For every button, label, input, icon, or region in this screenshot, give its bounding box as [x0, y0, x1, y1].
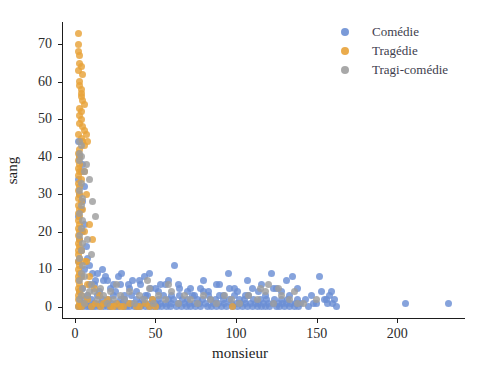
scatter-point: [228, 296, 235, 303]
scatter-point: [175, 300, 182, 307]
legend-marker-icon: [341, 28, 349, 36]
scatter-point: [88, 251, 95, 258]
scatter-point: [83, 161, 90, 168]
legend-label: Comédie: [372, 22, 419, 41]
legend-marker-icon: [341, 47, 349, 55]
legend-item[interactable]: Tragi-comédie: [341, 60, 473, 79]
x-tick-mark: [397, 319, 398, 323]
y-tick-label: 60: [12, 75, 52, 89]
scatter-point: [265, 281, 272, 288]
scatter-point: [402, 300, 409, 307]
scatter-point: [97, 285, 104, 292]
scatter-point: [75, 41, 82, 48]
scatter-point: [278, 292, 285, 299]
scatter-point: [86, 176, 93, 183]
x-tick-mark: [317, 319, 318, 323]
scatter-point: [78, 247, 85, 254]
scatter-point: [313, 296, 320, 303]
scatter-point: [78, 142, 85, 149]
scatter-point: [81, 101, 88, 108]
y-tick-label: 50: [12, 112, 52, 126]
x-tick-mark: [155, 319, 156, 323]
scatter-point: [117, 303, 124, 310]
scatter-point: [225, 270, 232, 277]
scatter-point: [131, 300, 138, 307]
scatter-point: [99, 266, 106, 273]
x-tick-label: 200: [367, 325, 427, 343]
scatter-point: [76, 60, 83, 67]
scatter-point: [194, 300, 201, 307]
scatter-point: [144, 277, 151, 284]
scatter-point: [236, 300, 243, 307]
scatter-point: [213, 300, 220, 307]
scatter-point: [88, 281, 95, 288]
scatter-point: [165, 281, 172, 288]
scatter-point: [162, 296, 169, 303]
scatter-point: [78, 180, 85, 187]
scatter-point: [300, 300, 307, 307]
scatter-point: [146, 285, 153, 292]
x-tick-label: 50: [125, 325, 185, 343]
scatter-point: [244, 277, 251, 284]
legend-item[interactable]: Comédie: [341, 22, 473, 41]
y-axis-label: sang: [4, 136, 21, 206]
scatter-point: [152, 285, 159, 292]
scatter-point: [110, 296, 117, 303]
scatter-point: [78, 225, 85, 232]
scatter-point: [331, 296, 338, 303]
y-tick-label: 10: [12, 262, 52, 276]
legend-label: Tragi-comédie: [372, 60, 448, 79]
scatter-point: [286, 296, 293, 303]
scatter-point: [83, 131, 90, 138]
scatter-point: [197, 285, 204, 292]
scatter-point: [75, 30, 82, 37]
scatter-point: [86, 221, 93, 228]
scatter-point: [333, 303, 340, 310]
legend-label: Tragédie: [372, 41, 418, 60]
scatter-point: [328, 288, 335, 295]
scatter-point: [187, 285, 194, 292]
x-tick-label: 150: [287, 325, 347, 343]
y-tick-label: 0: [12, 300, 52, 314]
scatter-point: [76, 255, 83, 262]
scatter-point: [257, 285, 264, 292]
x-tick-mark: [236, 319, 237, 323]
scatter-point: [118, 270, 125, 277]
scatter-point: [150, 300, 157, 307]
x-tick-label: 100: [206, 325, 266, 343]
y-tick-label: 70: [12, 37, 52, 51]
scatter-point: [275, 285, 282, 292]
x-tick-label: 0: [45, 325, 105, 343]
legend-item[interactable]: Tragédie: [341, 41, 473, 60]
scatter-point: [445, 300, 452, 307]
scatter-point: [270, 300, 277, 307]
scatter-point: [141, 296, 148, 303]
legend: ComédieTragédieTragi-comédie: [341, 22, 473, 79]
y-tick-label: 20: [12, 225, 52, 239]
legend-marker-icon: [341, 66, 349, 74]
x-axis-spine: [62, 318, 465, 319]
x-tick-mark: [75, 319, 76, 323]
scatter-point: [78, 202, 85, 209]
scatter-point: [291, 288, 298, 295]
scatter-point: [268, 270, 275, 277]
scatter-point: [78, 86, 85, 93]
scatter-point: [81, 300, 88, 307]
scatter-point: [76, 210, 83, 217]
scatter-point: [283, 277, 290, 284]
scatter-point: [254, 296, 261, 303]
scatter-point: [323, 296, 330, 303]
scatter-plot-figure: 050100150200 010203040506070 monsieur sa…: [0, 0, 480, 374]
scatter-point: [175, 281, 182, 288]
scatter-point: [231, 285, 238, 292]
x-axis-label: monsieur: [0, 345, 480, 362]
